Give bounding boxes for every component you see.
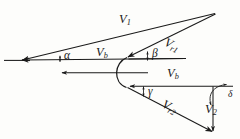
label-v1: V1 — [119, 13, 131, 26]
label-angle-delta: δ — [228, 90, 232, 100]
label-angle-alpha: α — [64, 50, 70, 62]
velocity-triangle-diagram: V1 Vr1 Vb Vb Vr2 V2 α β γ δ — [0, 0, 240, 139]
label-vb-top: Vb — [96, 46, 108, 59]
label-vb-bottom: Vb — [167, 67, 179, 80]
label-v2: V2 — [205, 103, 217, 116]
label-angle-gamma: γ — [148, 86, 153, 98]
label-angle-beta: β — [152, 48, 158, 60]
